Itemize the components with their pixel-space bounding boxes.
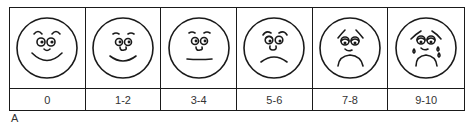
- face-cell-7-8: [313, 8, 389, 89]
- scale-label-1-2: 1-2: [86, 89, 162, 110]
- face-cell-5-6: [237, 8, 313, 89]
- neutral-face-icon: [167, 16, 231, 80]
- face-cell-9-10: [388, 8, 464, 89]
- face-cell-3-4: [161, 8, 237, 89]
- figure-label: A: [11, 112, 18, 124]
- very-happy-face-icon: [15, 16, 79, 80]
- happy-face-icon: [91, 16, 155, 80]
- face-cell-1-2: [86, 8, 162, 89]
- crying-face-icon: [394, 16, 458, 80]
- scale-label-0: 0: [10, 89, 86, 110]
- very-sad-face-icon: [318, 16, 382, 80]
- scale-label-3-4: 3-4: [161, 89, 237, 110]
- sad-face-icon: [242, 16, 306, 80]
- scale-label-5-6: 5-6: [237, 89, 313, 110]
- scale-label-9-10: 9-10: [388, 89, 464, 110]
- pain-scale-table: 0 1-2 3-4 5-6 7-8 9-10: [9, 7, 465, 111]
- scale-label-7-8: 7-8: [313, 89, 389, 110]
- face-cell-0: [10, 8, 86, 89]
